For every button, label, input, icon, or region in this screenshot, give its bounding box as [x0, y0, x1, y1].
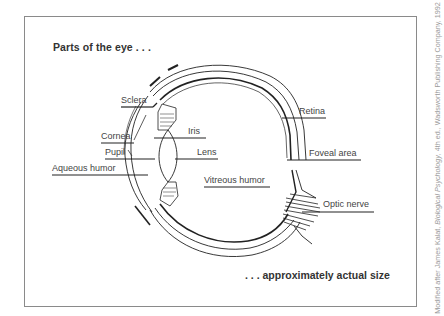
label-lens: Lens	[197, 148, 217, 157]
label-cornea: Cornea	[101, 132, 131, 141]
label-aqueous-humor: Aqueous humor	[52, 164, 116, 173]
source-credit: Modified after James Kalat, Biological P…	[433, 2, 442, 314]
label-sclera: Sclera	[121, 96, 147, 105]
label-vitreous-humor: Vitreous humor	[204, 176, 265, 185]
size-note: . . . approximately actual size	[245, 269, 390, 281]
credit-book-title: Biological Psychology	[433, 155, 442, 225]
label-retina: Retina	[299, 107, 325, 116]
credit-prefix: Modified after James Kalat,	[433, 225, 442, 314]
label-pupil: Pupil	[105, 148, 125, 157]
label-foveal-area: Foveal area	[309, 149, 357, 158]
label-optic-nerve: Optic nerve	[323, 200, 369, 209]
credit-suffix: , 4th ed., Wadsworth Publishing Company,…	[433, 2, 442, 155]
label-iris: Iris	[188, 127, 200, 136]
